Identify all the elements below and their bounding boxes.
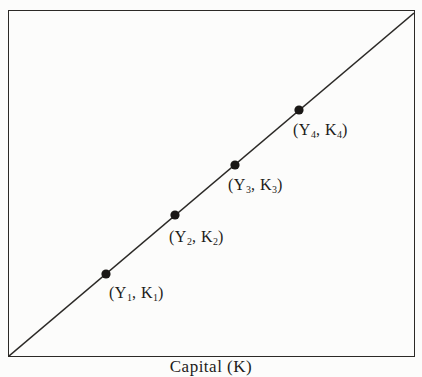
label-text: (Y [228, 176, 246, 193]
data-point-1 [101, 269, 110, 278]
label-text: ) [158, 284, 164, 301]
point-label-3: (Y3, K3) [228, 176, 283, 195]
label-text: ) [342, 121, 348, 138]
diagonal-line-chart [9, 11, 414, 356]
data-point-4 [294, 105, 303, 114]
data-point-3 [230, 160, 239, 169]
label-text: (Y [293, 121, 311, 138]
label-text: (Y [169, 228, 187, 245]
label-text: (Y [109, 284, 127, 301]
plot-area: (Y1, K1) (Y2, K2) (Y3, K3) (Y4, K4) [8, 10, 415, 357]
label-text: , K [251, 176, 272, 193]
point-label-1: (Y1, K1) [109, 284, 164, 303]
point-label-4: (Y4, K4) [293, 121, 348, 140]
point-label-2: (Y2, K2) [169, 228, 224, 247]
figure: (Y1, K1) (Y2, K2) (Y3, K3) (Y4, K4) Capi… [0, 0, 422, 377]
label-text: , K [192, 228, 213, 245]
diagonal-line [9, 13, 414, 356]
data-point-2 [170, 210, 179, 219]
label-text: ) [218, 228, 224, 245]
x-axis-label: Capital (K) [0, 357, 422, 377]
label-text: , K [132, 284, 153, 301]
label-text: ) [277, 176, 283, 193]
label-text: , K [316, 121, 337, 138]
